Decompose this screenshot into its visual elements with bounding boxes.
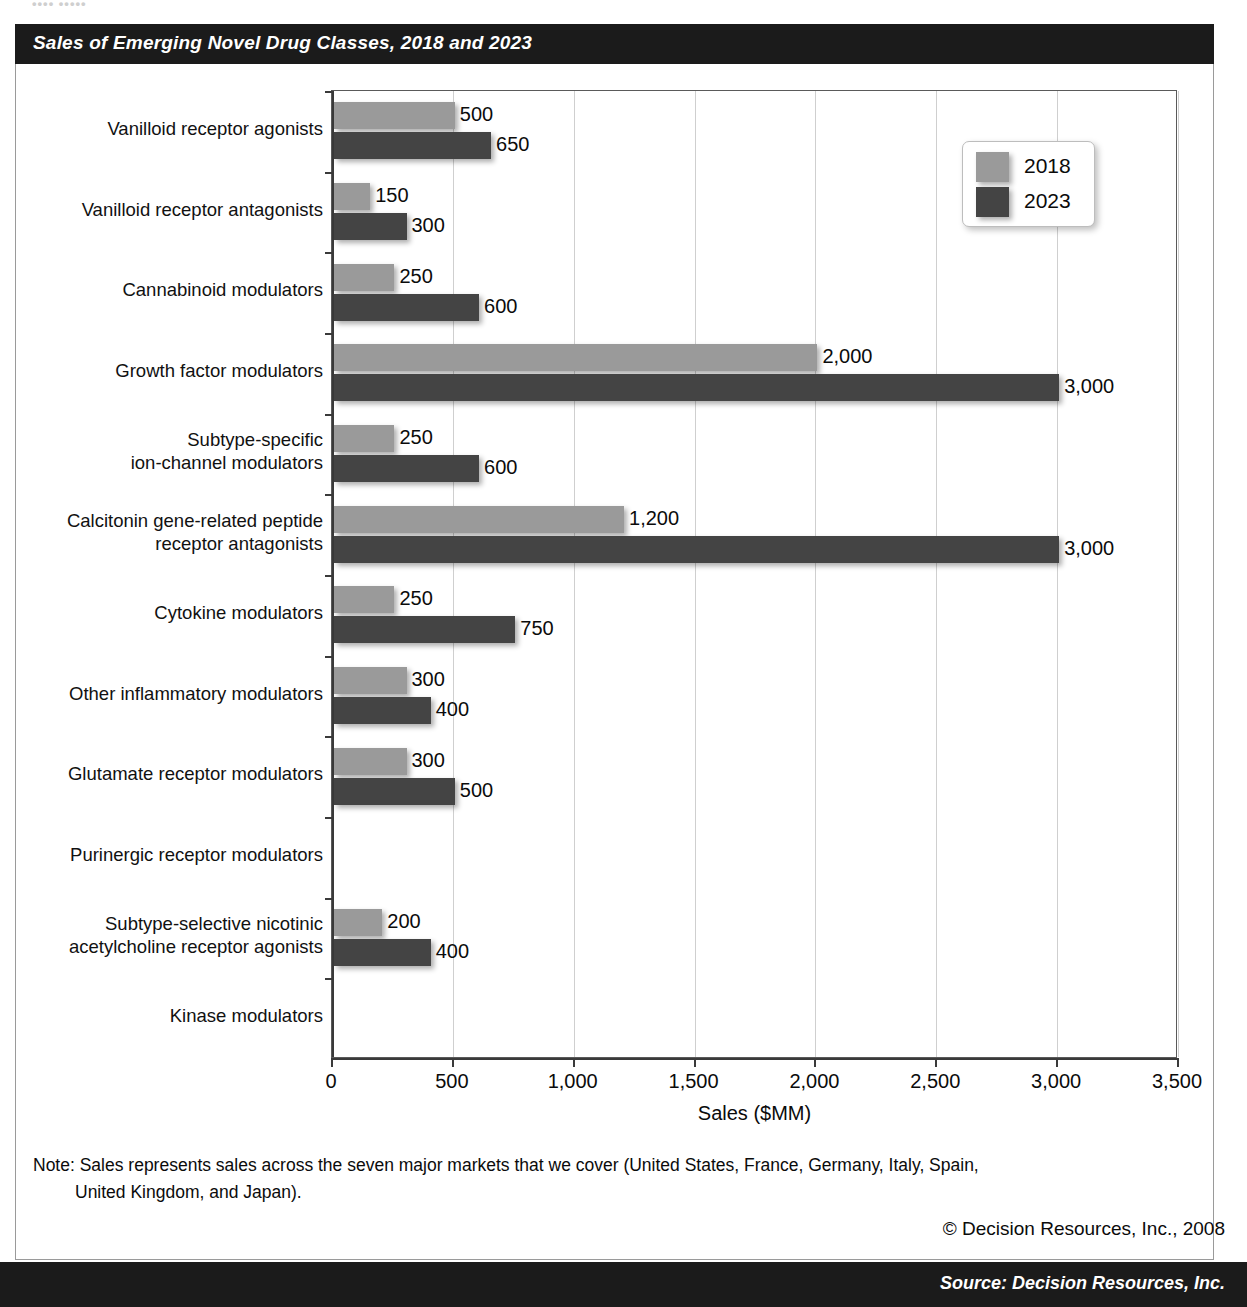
gridline [695,91,696,1057]
bar-value-label: 150 [375,184,408,207]
y-tick-mark [325,333,332,335]
legend-swatch-2023-icon [976,187,1009,217]
x-tick-label: 2,000 [789,1070,839,1093]
bar-2018 [334,264,394,291]
bar-2018 [334,506,624,533]
bar-2023 [334,616,515,643]
bar-value-label: 300 [412,749,445,772]
bar-2018 [334,183,370,210]
x-axis-line [331,1058,1178,1060]
x-tick-label: 0 [325,1070,336,1093]
page-title: Sales of Emerging Novel Drug Classes, 20… [33,32,532,54]
x-tick-label: 2,500 [910,1070,960,1093]
bar-2023 [334,455,479,482]
footnote: Note: Sales represents sales across the … [33,1152,1198,1206]
category-label: Kinase modulators [3,1004,323,1027]
source-banner: Source: Decision Resources, Inc. [0,1262,1247,1307]
bar-value-label: 3,000 [1064,375,1114,398]
bar-2018 [334,586,394,613]
figure-container: •••• ••••• Sales of Emerging Novel Drug … [0,0,1247,1307]
bar-2023 [334,697,431,724]
bar-value-label: 300 [412,214,445,237]
bar-value-label: 1,200 [629,507,679,530]
bar-value-label: 750 [520,617,553,640]
category-label: Purinergic receptor modulators [3,843,323,866]
category-label: Calcitonin gene-related peptide receptor… [3,509,323,555]
x-tick-mark [694,1058,696,1067]
y-tick-mark [325,656,332,658]
y-tick-mark [325,91,332,93]
bar-2023 [334,294,479,321]
bar-value-label: 400 [436,940,469,963]
bar-2023 [334,213,407,240]
x-tick-mark [452,1058,454,1067]
y-tick-mark [325,414,332,416]
gridline [1178,91,1179,1057]
bar-value-label: 650 [496,133,529,156]
x-tick-label: 3,500 [1152,1070,1202,1093]
x-tick-mark [331,1058,333,1067]
gridline [815,91,816,1057]
top-text-fragment: •••• ••••• [32,0,232,8]
x-tick-mark [1056,1058,1058,1067]
bar-value-label: 2,000 [822,345,872,368]
bar-2023 [334,374,1059,401]
legend-label-2018: 2018 [1024,154,1071,178]
category-label: Vanilloid receptor agonists [3,117,323,140]
bar-value-label: 250 [399,587,432,610]
category-label: Cytokine modulators [3,601,323,624]
category-label: Growth factor modulators [3,359,323,382]
category-label: Other inflammatory modulators [3,682,323,705]
y-tick-mark [325,494,332,496]
bar-value-label: 500 [460,103,493,126]
bar-2018 [334,102,455,129]
y-tick-mark [325,898,332,900]
gridline [574,91,575,1057]
bar-value-label: 600 [484,295,517,318]
y-tick-mark [325,575,332,577]
bar-value-label: 200 [387,910,420,933]
category-label: Glutamate receptor modulators [3,762,323,785]
x-tick-label: 500 [435,1070,468,1093]
y-tick-mark [325,252,332,254]
y-tick-mark [325,172,332,174]
y-tick-mark [325,817,332,819]
gridline [936,91,937,1057]
title-banner: Sales of Emerging Novel Drug Classes, 20… [15,24,1214,64]
legend-label-2023: 2023 [1024,189,1071,213]
copyright-text: © Decision Resources, Inc., 2008 [943,1218,1225,1240]
bar-2018 [334,667,407,694]
chart-legend: 2018 2023 [962,141,1095,227]
bar-value-label: 500 [460,779,493,802]
x-tick-mark [814,1058,816,1067]
x-axis-title: Sales ($MM) [331,1102,1178,1125]
bar-2023 [334,939,431,966]
x-tick-label: 1,000 [548,1070,598,1093]
footnote-line-2: United Kingdom, and Japan). [33,1179,1198,1206]
bar-value-label: 250 [399,265,432,288]
gridline [1057,91,1058,1057]
bar-2023 [334,536,1059,563]
x-tick-mark [1177,1058,1179,1067]
category-label: Subtype-specific ion-channel modulators [3,428,323,474]
bar-2018 [334,748,407,775]
bar-2018 [334,425,394,452]
legend-swatch-2018-icon [976,152,1009,182]
bar-value-label: 250 [399,426,432,449]
x-tick-mark [935,1058,937,1067]
y-tick-mark [325,978,332,980]
y-tick-mark [325,736,332,738]
category-label: Cannabinoid modulators [3,278,323,301]
x-tick-mark [573,1058,575,1067]
bar-value-label: 400 [436,698,469,721]
bar-2018 [334,909,382,936]
gridline [453,91,454,1057]
bar-value-label: 3,000 [1064,537,1114,560]
x-tick-label: 3,000 [1031,1070,1081,1093]
category-label: Vanilloid receptor antagonists [3,198,323,221]
bar-value-label: 300 [412,668,445,691]
category-label: Subtype-selective nicotinic acetylcholin… [3,912,323,958]
bar-2023 [334,132,491,159]
bar-2018 [334,344,817,371]
x-tick-label: 1,500 [669,1070,719,1093]
